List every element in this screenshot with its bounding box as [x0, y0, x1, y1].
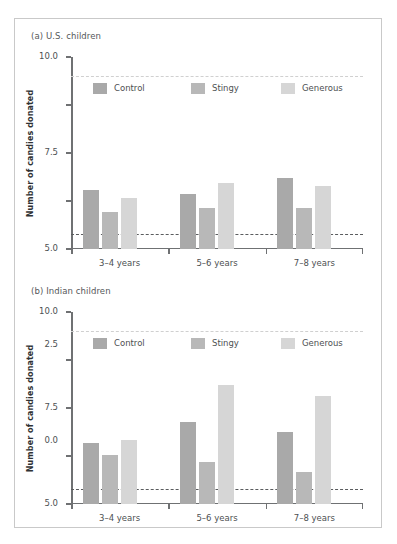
bar-stingy-3 — [296, 208, 312, 249]
legend-swatch-generous — [281, 338, 295, 349]
x-tick — [168, 504, 170, 509]
bar-stingy-2 — [199, 208, 215, 249]
bar-stingy-1 — [102, 455, 118, 504]
bar-control-2 — [180, 422, 196, 504]
legend-item-stingy[interactable]: Stingy — [191, 81, 239, 95]
legend-a: ControlStingyGenerous — [71, 81, 363, 95]
bar-generous-2 — [218, 183, 234, 249]
legend-item-generous[interactable]: Generous — [281, 81, 343, 95]
x-tick — [266, 504, 268, 509]
legend-swatch-stingy — [191, 338, 205, 349]
y-tick: 2.5 — [66, 200, 71, 202]
y-tick: 10.0 — [66, 56, 71, 58]
legend-label-stingy: Stingy — [212, 83, 239, 93]
legend-label-control: Control — [114, 338, 145, 348]
x-group-label: 3–4 years — [99, 513, 140, 523]
y-tick: 7.5 — [66, 104, 71, 106]
x-tick — [71, 504, 73, 509]
legend-b: ControlStingyGenerous — [71, 336, 363, 350]
legend-swatch-control — [93, 83, 107, 94]
legend-item-control[interactable]: Control — [93, 81, 145, 95]
bar-generous-2 — [218, 385, 234, 504]
panel-title-b: (b) Indian children — [31, 286, 111, 296]
bar-stingy-3 — [296, 472, 312, 504]
y-tick-label: 10.0 — [39, 306, 58, 316]
x-tick — [362, 504, 364, 509]
y-axis-label-b: Number of candies donated — [25, 312, 37, 504]
y-tick: 10.0 — [66, 311, 71, 313]
bar-control-1 — [83, 190, 99, 249]
legend-label-generous: Generous — [302, 338, 343, 348]
x-tick — [362, 249, 364, 254]
upper-reference-line — [71, 76, 363, 77]
legend-item-control[interactable]: Control — [93, 336, 145, 350]
y-tick-label: 7.5 — [44, 402, 58, 412]
bar-generous-3 — [315, 396, 331, 504]
legend-label-generous: Generous — [302, 83, 343, 93]
legend-label-stingy: Stingy — [212, 338, 239, 348]
y-axis-label-text-b: Number of candies donated — [27, 344, 36, 471]
y-tick-label: 5.0 — [44, 243, 58, 253]
legend-swatch-stingy — [191, 83, 205, 94]
legend-item-stingy[interactable]: Stingy — [191, 336, 239, 350]
legend-item-generous[interactable]: Generous — [281, 336, 343, 350]
panel-us-children: (a) U.S. children Number of candies dona… — [15, 19, 383, 274]
y-tick-label: 5.0 — [44, 498, 58, 508]
bar-control-3 — [277, 432, 293, 504]
legend-swatch-generous — [281, 83, 295, 94]
panel-indian-children: (b) Indian children Number of candies do… — [15, 274, 383, 528]
upper-reference-line — [71, 331, 363, 332]
bar-control-2 — [180, 194, 196, 249]
y-tick-label: 10.0 — [39, 51, 58, 61]
figure-container: (a) U.S. children Number of candies dona… — [14, 18, 382, 528]
y-axis-label-text-a: Number of candies donated — [27, 89, 36, 216]
x-group-label: 5–6 years — [196, 513, 237, 523]
x-tick — [266, 249, 268, 254]
bar-generous-1 — [121, 440, 137, 504]
y-tick-label: 7.5 — [44, 147, 58, 157]
x-group-label: 7–8 years — [294, 513, 335, 523]
x-group-label: 3–4 years — [99, 258, 140, 268]
legend-label-control: Control — [114, 83, 145, 93]
x-tick — [168, 249, 170, 254]
y-tick: 5.0 — [66, 152, 71, 154]
y-tick: 7.5 — [66, 359, 71, 361]
bar-generous-3 — [315, 186, 331, 249]
x-group-label: 5–6 years — [196, 258, 237, 268]
bar-stingy-2 — [199, 462, 215, 504]
x-tick — [71, 249, 73, 254]
x-group-label: 7–8 years — [294, 258, 335, 268]
y-tick: 2.5 — [66, 455, 71, 457]
y-axis-label-a: Number of candies donated — [25, 57, 37, 249]
bar-control-1 — [83, 443, 99, 504]
bar-stingy-1 — [102, 212, 118, 249]
bar-generous-1 — [121, 198, 137, 249]
y-tick: 5.0 — [66, 407, 71, 409]
legend-swatch-control — [93, 338, 107, 349]
bar-control-3 — [277, 178, 293, 249]
panel-title-a: (a) U.S. children — [31, 31, 101, 41]
